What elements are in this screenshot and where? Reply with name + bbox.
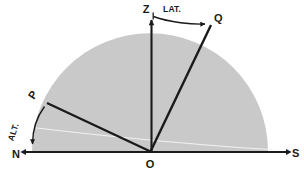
label-altitude-angle: ALT.: [6, 122, 21, 142]
label-latitude-angle: LAT.: [163, 4, 181, 14]
celestial-dome: [32, 33, 268, 151]
label-star: P: [26, 88, 40, 101]
latitude-arc-arrow: [154, 17, 206, 25]
label-pole: Q: [214, 12, 223, 24]
label-south: S: [292, 147, 299, 159]
label-origin: O: [146, 158, 155, 170]
label-north: N: [12, 148, 20, 160]
figure-canvas: Z ===== --> Q (celestial pole direction)…: [0, 0, 304, 171]
celestial-sphere-figure: Z ===== --> Q (celestial pole direction)…: [0, 0, 304, 171]
label-zenith: Z: [143, 3, 150, 15]
